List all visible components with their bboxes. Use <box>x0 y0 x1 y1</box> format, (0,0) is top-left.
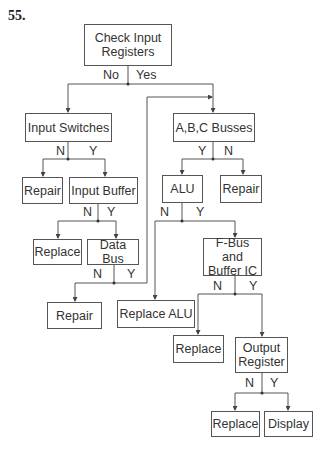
label-buffer-y: Y <box>107 206 115 219</box>
node-fbus-buffer-ic: F-Bus and Buffer IC <box>203 238 262 276</box>
label-check-no: No <box>103 69 119 82</box>
label-databus-y: Y <box>127 268 135 281</box>
node-input-switches: Input Switches <box>25 113 112 142</box>
node-repair-1: Repair <box>22 177 63 204</box>
node-output-register: Output Register <box>235 337 288 373</box>
node-data-bus: Data Bus <box>87 239 139 265</box>
label-databus-n: N <box>93 268 102 281</box>
node-repair-3: Repair <box>47 302 102 329</box>
label-switches-y: Y <box>89 145 97 158</box>
label-output-y: Y <box>270 377 278 390</box>
label-busses-n: N <box>224 145 233 158</box>
label-switches-n: N <box>56 145 65 158</box>
node-replace-1: Replace <box>33 239 82 265</box>
node-input-buffer: Input Buffer <box>69 177 138 204</box>
label-busses-y: Y <box>198 145 206 158</box>
node-repair-2: Repair <box>220 175 262 203</box>
label-output-n: N <box>245 377 254 390</box>
node-alu: ALU <box>162 175 203 203</box>
flowchart-canvas: 55. <box>0 0 326 457</box>
node-display: Display <box>264 411 313 437</box>
node-check-input-registers: Check Input Registers <box>84 24 172 66</box>
label-check-yes: Yes <box>136 69 156 82</box>
node-abc-busses: A,B,C Busses <box>173 113 255 142</box>
node-replace-alu: Replace ALU <box>117 300 195 328</box>
label-buffer-n: N <box>83 206 92 219</box>
label-fbus-n: N <box>213 280 222 293</box>
label-fbus-y: Y <box>249 280 257 293</box>
node-replace-3: Replace <box>211 411 260 437</box>
label-alu-y: Y <box>196 206 204 219</box>
label-alu-n: N <box>160 206 169 219</box>
node-replace-2: Replace <box>173 335 224 363</box>
